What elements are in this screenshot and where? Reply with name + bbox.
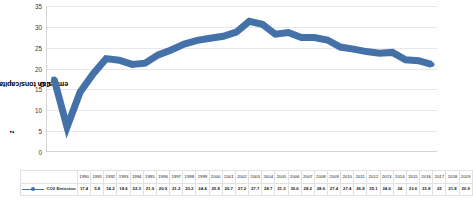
table-cell-year: 2018 (446, 171, 459, 184)
table-cell-value: 21.9 (143, 183, 156, 196)
plot-wrapper: 05101520253035 (20, 6, 441, 168)
y-axis-tick-10: 10 (35, 107, 42, 114)
table-cell-year: 2003 (249, 171, 262, 184)
legend-marker-icon (22, 187, 44, 192)
y-axis-tick-30: 30 (35, 23, 42, 30)
table-cell-value: 21.2 (170, 183, 183, 196)
table-cell-year: 2006 (288, 171, 301, 184)
table-cell-value: 27.4 (341, 183, 354, 196)
data-point-2008 (285, 30, 291, 35)
table-cell-value: 24.4 (196, 183, 209, 196)
table-cell-year: 2008 (314, 171, 327, 184)
data-table-wrapper: 1990199119921993199419951996199719981999… (20, 170, 441, 198)
data-point-2007 (272, 32, 278, 37)
table-cell-year: 2002 (235, 171, 248, 184)
table-cell-year: 2014 (393, 171, 406, 184)
data-point-2004 (233, 30, 239, 35)
table-cell-value: 30.6 (288, 183, 301, 196)
data-point-2015 (377, 51, 383, 56)
table-cell-year: 2013 (380, 171, 393, 184)
plot-area (46, 6, 437, 152)
table-cell-value: 25.1 (367, 183, 380, 196)
data-point-2013 (351, 47, 357, 52)
table-cell-year: 1992 (104, 171, 117, 184)
data-point-1996 (129, 62, 135, 67)
table-row-years: 1990199119921993199419951996199719981999… (21, 171, 473, 184)
data-point-2010 (311, 35, 317, 40)
data-point-2018 (416, 58, 422, 63)
table-cell-year: 1990 (78, 171, 91, 184)
table-cell-year: 1995 (143, 171, 156, 184)
y-axis-tick-labels: 05101520253035 (20, 6, 44, 152)
series-line (54, 21, 432, 127)
table-row-values: CO2 Emission 17.45.814.218.622.321.920.9… (21, 183, 473, 196)
data-point-1997 (142, 61, 148, 66)
data-point-2017 (403, 57, 409, 62)
data-point-2019 (429, 62, 435, 67)
table-cell-value: 31.3 (275, 183, 288, 196)
table-cell-value: 26.8 (354, 183, 367, 196)
data-point-2005 (246, 19, 252, 24)
table-cell-value: 27.4 (327, 183, 340, 196)
y-axis-tick-25: 25 (35, 44, 42, 51)
table-cell-year: 2004 (262, 171, 275, 184)
data-point-2003 (220, 34, 226, 39)
table-cell-value: 22.3 (130, 183, 143, 196)
table-cell-year: 1997 (170, 171, 183, 184)
table-cell-year: 2000 (209, 171, 222, 184)
data-point-2011 (324, 38, 330, 43)
table-cell-value: 23.6 (406, 183, 419, 196)
table-cell-value: 17.4 (78, 183, 91, 196)
series-co2-emission (47, 6, 437, 151)
data-point-1993 (90, 71, 96, 76)
data-point-1998 (155, 52, 161, 57)
table-cell-value: 20.9 (156, 183, 169, 196)
table-cell-year: 1998 (183, 171, 196, 184)
y-axis-tick-35: 35 (35, 3, 42, 10)
table-cell-value: 21.8 (446, 183, 459, 196)
table-cell-value: 24 (393, 183, 406, 196)
data-point-1995 (116, 58, 122, 63)
y-axis-tick-5: 5 (38, 128, 42, 135)
table-cell-year: 1991 (91, 171, 104, 184)
legend-spacer-cell (21, 171, 78, 184)
data-point-2009 (298, 35, 304, 40)
data-point-1999 (168, 47, 174, 52)
table-cell-year: 2009 (327, 171, 340, 184)
data-point-2006 (259, 22, 265, 27)
table-cell-year: 2011 (354, 171, 367, 184)
table-cell-value: 18.6 (117, 183, 130, 196)
table-cell-value: 28.7 (262, 183, 275, 196)
y-axis-title: CO2 emission tons/capita per year (0, 0, 20, 168)
table-cell-value: 27.7 (249, 183, 262, 196)
table-cell-year: 1993 (117, 171, 130, 184)
table-cell-year: 1994 (130, 171, 143, 184)
y-axis-tick-20: 20 (35, 65, 42, 72)
data-point-1992 (77, 90, 83, 95)
table-cell-value: 25.8 (209, 183, 222, 196)
table-cell-year: 2007 (301, 171, 314, 184)
table-cell-value: 14.2 (104, 183, 117, 196)
table-cell-value: 5.8 (91, 183, 104, 196)
table-cell-value: 23.8 (420, 183, 433, 196)
y-axis-tick-15: 15 (35, 86, 42, 93)
table-cell-year: 2010 (341, 171, 354, 184)
y-axis-tick-0: 0 (38, 149, 42, 156)
table-cell-year: 2017 (433, 171, 446, 184)
table-cell-year: 2012 (367, 171, 380, 184)
data-point-2000 (181, 42, 187, 47)
table-cell-year: 2001 (222, 171, 235, 184)
table-cell-year: 1999 (196, 171, 209, 184)
table-cell-value: 23.2 (183, 183, 196, 196)
data-table: 1990199119921993199419951996199719981999… (20, 170, 473, 196)
data-point-1991 (64, 125, 70, 130)
legend-entry: CO2 Emission (21, 183, 78, 196)
table-cell-value: 22 (433, 183, 446, 196)
table-cell-year: 2015 (406, 171, 419, 184)
data-point-1994 (103, 56, 109, 61)
table-cell-year: 2005 (275, 171, 288, 184)
table-cell-value: 28.6 (314, 183, 327, 196)
table-cell-year: 2016 (420, 171, 433, 184)
data-point-2001 (194, 38, 200, 43)
